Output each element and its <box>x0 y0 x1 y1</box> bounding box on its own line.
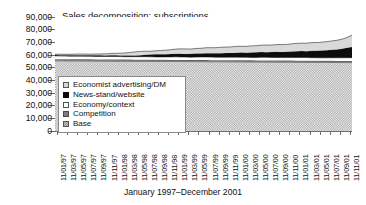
legend-swatch-icon <box>63 82 69 88</box>
x-axis-label: 11/09/01 <box>343 154 350 181</box>
y-axis-tick <box>48 67 55 68</box>
x-axis-label: 11/11/97 <box>111 155 118 181</box>
y-axis-label: 80,000 <box>26 25 52 34</box>
x-axis-label: 11/09/97 <box>100 154 107 181</box>
y-axis-tick-mark <box>48 55 55 56</box>
x-axis-label: 11/11/98 <box>171 155 178 181</box>
y-axis-label: 30,000 <box>26 89 52 98</box>
x-axis-tick <box>239 131 240 135</box>
x-axis-label: 11/01/99 <box>181 154 188 181</box>
x-axis-tick <box>259 131 260 135</box>
y-axis-tick-mark <box>48 131 55 132</box>
x-axis-tick <box>219 131 220 135</box>
x-axis-labels: 11/01/9711/03/9711/05/9711/07/9711/09/97… <box>55 137 352 183</box>
legend-swatch-icon <box>63 102 69 108</box>
y-axis-tick-mark <box>48 17 55 18</box>
legend-item[interactable]: Economist advertising/DM <box>63 80 181 90</box>
x-axis-label: 11/11/99 <box>232 155 239 181</box>
y-axis-tick-mark <box>48 42 55 43</box>
legend-item-label: Economy/context <box>73 101 134 109</box>
x-axis-label: 11/07/01 <box>333 154 340 181</box>
y-axis-tick <box>48 17 55 18</box>
chart-legend: Economist advertising/DMNews-stand/websi… <box>58 76 186 133</box>
x-axis-tick <box>289 131 290 135</box>
y-axis-tick <box>48 118 55 119</box>
x-axis-tick <box>279 131 280 135</box>
x-axis-tick <box>229 131 230 135</box>
y-axis-label: 60,000 <box>26 51 52 60</box>
x-axis-label: 11/11/01 <box>353 155 360 181</box>
x-axis-tick <box>198 131 199 135</box>
y-axis-label: 70,000 <box>26 38 52 47</box>
legend-item-label: News-stand/website <box>73 91 145 99</box>
y-axis-tick <box>48 131 55 132</box>
x-axis-label: 11/05/01 <box>323 154 330 181</box>
x-axis-label: 11/11/00 <box>292 155 299 181</box>
y-axis-tick <box>48 29 55 30</box>
x-axis-label: 11/01/98 <box>121 154 128 181</box>
legend-swatch-icon <box>63 92 69 98</box>
x-axis-label: 11/05/99 <box>201 154 208 181</box>
y-axis-label: 20,000 <box>26 101 52 110</box>
y-axis-label: 10,000 <box>26 114 52 123</box>
y-axis-tick-mark <box>48 105 55 106</box>
legend-item[interactable]: Base <box>63 119 181 129</box>
y-axis-tick <box>48 55 55 56</box>
legend-item-label: Economist advertising/DM <box>73 81 166 89</box>
x-axis-label: 11/03/01 <box>313 154 320 181</box>
x-axis-label: 11/03/97 <box>70 154 77 181</box>
x-axis-label: 11/07/97 <box>90 154 97 181</box>
x-axis-tick <box>310 131 311 135</box>
legend-item[interactable]: Economy/context <box>63 100 181 110</box>
x-axis-label: 11/05/97 <box>80 154 87 181</box>
legend-swatch-icon <box>63 111 69 117</box>
y-axis-tick <box>48 42 55 43</box>
x-axis-label: 11/09/98 <box>161 154 168 181</box>
x-axis-label: 11/01/97 <box>60 154 67 181</box>
x-axis-tick <box>299 131 300 135</box>
x-axis-label: 11/09/99 <box>222 154 229 181</box>
legend-item[interactable]: Competition <box>63 110 181 120</box>
y-axis-label: 90,000 <box>26 13 52 22</box>
x-axis-label: 11/07/99 <box>212 154 219 181</box>
x-axis-tick <box>340 131 341 135</box>
x-axis-label: 11/07/00 <box>272 154 279 181</box>
x-axis-label: 11/01/00 <box>242 154 249 181</box>
x-axis-label: 11/05/00 <box>262 154 269 181</box>
x-axis-label: 11/07/98 <box>151 154 158 181</box>
y-axis-tick-mark <box>48 67 55 68</box>
y-axis-label: 0 <box>47 127 52 136</box>
y-axis-tick <box>48 105 55 106</box>
legend-swatch-icon <box>63 121 69 127</box>
y-axis-tick-mark <box>48 29 55 30</box>
x-axis-label: 11/03/99 <box>191 154 198 181</box>
x-axis-tick <box>188 131 189 135</box>
y-axis-tick <box>48 80 55 81</box>
x-axis-tick <box>330 131 331 135</box>
y-axis-label: 40,000 <box>26 76 52 85</box>
legend-item-label: Competition <box>73 110 116 118</box>
x-axis-label: 11/03/98 <box>131 154 138 181</box>
x-axis-tick <box>209 131 210 135</box>
legend-item-label: Base <box>73 120 91 128</box>
x-axis-label: 11/01/01 <box>302 154 309 181</box>
x-axis-caption: January 1997–December 2001 <box>0 188 366 197</box>
y-axis-label: 50,000 <box>26 63 52 72</box>
x-axis-tick <box>269 131 270 135</box>
x-axis-tick <box>320 131 321 135</box>
y-axis-tick-mark <box>48 80 55 81</box>
legend-item[interactable]: News-stand/website <box>63 90 181 100</box>
x-axis-label: 11/03/00 <box>252 154 259 181</box>
y-axis-tick <box>48 93 55 94</box>
x-axis-label: 11/05/98 <box>141 154 148 181</box>
y-axis-tick-mark <box>48 118 55 119</box>
chart-container: Sales decomposition: subscriptions 90,00… <box>0 0 366 205</box>
y-axis-tick-mark <box>48 93 55 94</box>
x-axis-tick <box>350 131 351 135</box>
x-axis-tick <box>249 131 250 135</box>
x-axis-label: 11/09/00 <box>282 154 289 181</box>
